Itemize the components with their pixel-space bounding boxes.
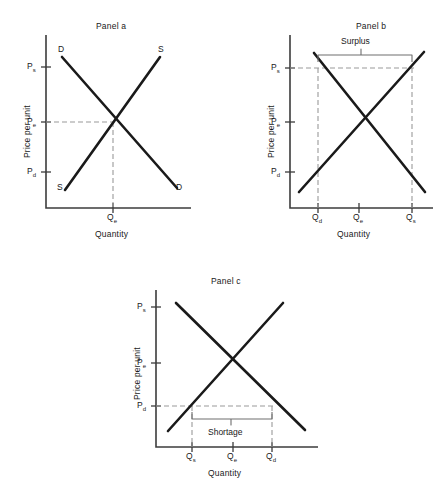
panel-b-title: Panel b (356, 21, 386, 31)
panel-a-tick-pd-sub: d (33, 172, 36, 178)
panel-b-tick-label-ps: Ps (271, 62, 280, 74)
panel-c-tick-label-qe: Qe (227, 451, 237, 463)
panel-c-tick-qs-base: Q (186, 451, 193, 461)
panel-b-tick-qe-sub: e (360, 218, 363, 224)
panel-a-graph (41, 35, 191, 213)
supply-demand-figure: Panel a Price per unit Quantity Ps Pe Pd… (0, 0, 445, 492)
panel-a-label-demand-top: D (58, 44, 64, 54)
panel-b-tick-label-qs: Qs (406, 212, 416, 224)
panel-a-label-supply-top: S (158, 44, 164, 54)
panel-c-tick-qs-sub: s (193, 457, 196, 463)
panel-c-tick-pd-sub: d (143, 406, 146, 412)
panel-c-tick-qe-sub: e (234, 457, 237, 463)
panel-b-tick-qs-sub: s (413, 218, 416, 224)
panel-b-tick-label-pd: Pd (271, 166, 280, 178)
panel-a-x-axis-label: Quantity (95, 229, 128, 239)
panel-a-tick-ps-sub: s (33, 67, 36, 73)
panel-c-tick-label-pd: Pd (137, 400, 146, 412)
panel-c-axes (156, 290, 318, 447)
panel-b-tick-pe-sub: e (277, 122, 280, 128)
panel-b-tick-label-qd: Qd (312, 212, 322, 224)
panel-b-tick-label-qe: Qe (353, 212, 363, 224)
panel-b-surplus-brace (318, 49, 412, 62)
panel-c-shortage-label: Shortage (208, 427, 243, 437)
panel-b-tick-pd-sub: d (277, 172, 280, 178)
panel-c-tick-label-pe: Pe (137, 357, 146, 369)
panel-c-tick-label-qs: Qs (186, 451, 196, 463)
panel-c-title: Panel c (211, 276, 241, 286)
panel-a-label-supply-bottom: S (57, 182, 63, 192)
panel-a-tick-label-pd: Pd (27, 166, 36, 178)
panel-c-tick-qd-base: Q (266, 451, 273, 461)
panel-c-tick-qe-base: Q (227, 451, 234, 461)
panel-c-demand-curve (176, 303, 305, 430)
panel-a-tick-qe-base: Q (107, 212, 114, 222)
panel-b-tick-ps-sub: s (277, 68, 280, 74)
panel-b-surplus-label: Surplus (341, 36, 370, 46)
panel-c-x-axis-label: Quantity (208, 468, 241, 478)
panel-c-tick-pe-sub: e (143, 363, 146, 369)
panel-a-tick-pe-sub: e (33, 122, 36, 128)
panel-a-tick-qe-sub: e (114, 218, 117, 224)
panel-b-tick-qd-sub: d (319, 218, 322, 224)
panel-c-supply-curve (168, 303, 283, 431)
panel-c-tick-qd-sub: d (273, 457, 276, 463)
panel-a-tick-label-pe: Pe (27, 116, 36, 128)
figure-canvas (0, 0, 445, 492)
panel-b-x-axis-label: Quantity (337, 229, 370, 239)
panel-a-y-axis-label: Price per unit (22, 105, 32, 158)
panel-c-shortage-brace (192, 412, 272, 425)
panel-a-tick-label-qe: Qe (107, 212, 117, 224)
panel-b-tick-label-pe: Pe (271, 116, 280, 128)
panel-c-y-axis-label: Price per unit (132, 347, 142, 400)
panel-c-tick-label-qd: Qd (266, 451, 276, 463)
panel-b-y-axis-label: Price per unit (266, 105, 276, 158)
panel-b-tick-qd-base: Q (312, 212, 319, 222)
panel-a-title: Panel a (96, 21, 126, 31)
panel-a-tick-label-ps: Ps (27, 61, 36, 73)
panel-b-tick-qs-base: Q (406, 212, 413, 222)
panel-b-tick-qe-base: Q (353, 212, 360, 222)
panel-c-tick-ps-sub: s (143, 307, 146, 313)
panel-a-label-demand-bottom: D (176, 182, 182, 192)
panel-c-tick-label-ps: Ps (137, 301, 146, 313)
panel-b-demand-curve (314, 53, 425, 192)
panel-b-graph (285, 35, 433, 213)
